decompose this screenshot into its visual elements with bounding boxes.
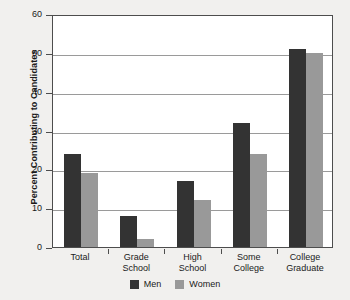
bar-chart: Percent Contributing to Candidates 01020…: [0, 0, 350, 300]
y-axis-tick-label: 10: [0, 204, 42, 213]
bar-men-some-college: [233, 123, 250, 247]
x-axis-label-line: Graduate: [277, 263, 333, 274]
bar-women-high-school: [194, 200, 211, 247]
legend-swatch-icon: [130, 280, 139, 289]
x-axis-category-label: GradeSchool: [108, 252, 164, 274]
y-axis-tick-label: 40: [0, 88, 42, 97]
x-axis-label-line: School: [108, 263, 164, 274]
x-axis-label-line: Grade: [108, 252, 164, 263]
plot-area: [52, 15, 333, 248]
legend-label: Women: [189, 280, 220, 289]
x-axis-label-line: Some: [221, 252, 277, 263]
bar-women-some-college: [250, 154, 267, 247]
x-axis-label-line: College: [221, 263, 277, 274]
x-axis-label-line: High: [164, 252, 220, 263]
y-axis-tick-label: 30: [0, 127, 42, 136]
y-axis-tick-label: 20: [0, 165, 42, 174]
legend-item-men: Men: [130, 280, 162, 289]
x-axis-label-line: College: [277, 252, 333, 263]
y-axis-tick-label: 0: [0, 243, 42, 252]
x-axis-category-label: SomeCollege: [221, 252, 277, 274]
x-axis-category-label: Total: [52, 252, 108, 263]
bar-women-college-graduate: [306, 53, 323, 247]
bar-women-total: [81, 173, 98, 247]
x-axis-category-label: HighSchool: [164, 252, 220, 274]
x-axis-category-label: CollegeGraduate: [277, 252, 333, 274]
plot-inner: [53, 16, 332, 247]
bar-men-total: [64, 154, 81, 247]
legend-swatch-icon: [175, 280, 184, 289]
chart-legend: MenWomen: [0, 280, 350, 289]
legend-item-women: Women: [175, 280, 220, 289]
bar-men-college-graduate: [289, 49, 306, 247]
bar-men-grade-school: [120, 216, 137, 247]
y-axis-tick-label: 50: [0, 49, 42, 58]
bar-women-grade-school: [137, 239, 154, 247]
x-axis-label-line: School: [164, 263, 220, 274]
y-axis-tick-label: 60: [0, 10, 42, 19]
legend-label: Men: [144, 280, 162, 289]
x-axis-label-line: Total: [52, 252, 108, 263]
bar-men-high-school: [177, 181, 194, 247]
y-axis-tick: [46, 248, 52, 249]
